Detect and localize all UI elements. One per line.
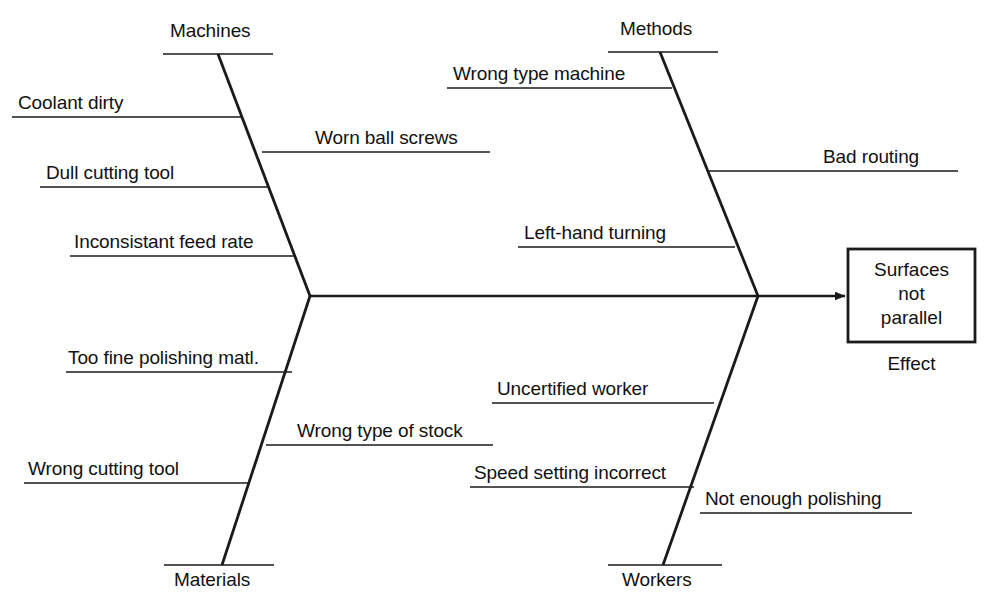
cause-label-wrong-cutting-tool: Wrong cutting tool	[28, 458, 179, 480]
effect-caption: Effect	[848, 352, 975, 376]
cause-label-inconsistant-feed-rate: Inconsistant feed rate	[74, 231, 253, 253]
cause-label-bad-routing: Bad routing	[823, 146, 919, 168]
category-label-workers: Workers	[622, 569, 692, 591]
cause-label-dull-cutting-tool: Dull cutting tool	[46, 162, 174, 184]
category-label-machines: Machines	[170, 20, 251, 42]
cause-label-wrong-type-of-stock: Wrong type of stock	[297, 420, 463, 442]
bone-methods	[660, 52, 758, 296]
cause-label-coolant-dirty: Coolant dirty	[18, 92, 123, 114]
bone-workers	[663, 296, 758, 565]
category-label-methods: Methods	[620, 18, 692, 40]
cause-label-uncertified-worker: Uncertified worker	[497, 378, 648, 400]
cause-label-worn-ball-screws: Worn ball screws	[315, 127, 458, 149]
cause-label-speed-setting-incorrect: Speed setting incorrect	[474, 462, 666, 484]
cause-label-wrong-type-machine: Wrong type machine	[453, 63, 625, 85]
fishbone-diagram: Machines Methods Materials Workers Coola…	[0, 0, 1003, 615]
category-label-materials: Materials	[174, 569, 250, 591]
bone-machines	[218, 54, 310, 296]
cause-label-too-fine-polishing-matl: Too fine polishing matl.	[68, 347, 259, 369]
cause-label-left-hand-turning: Left-hand turning	[524, 222, 666, 244]
cause-label-not-enough-polishing: Not enough polishing	[705, 488, 882, 510]
effect-box-line-1: Surfaces	[848, 258, 975, 282]
effect-box-line-2: not	[848, 282, 975, 306]
effect-box-line-3: parallel	[848, 306, 975, 330]
